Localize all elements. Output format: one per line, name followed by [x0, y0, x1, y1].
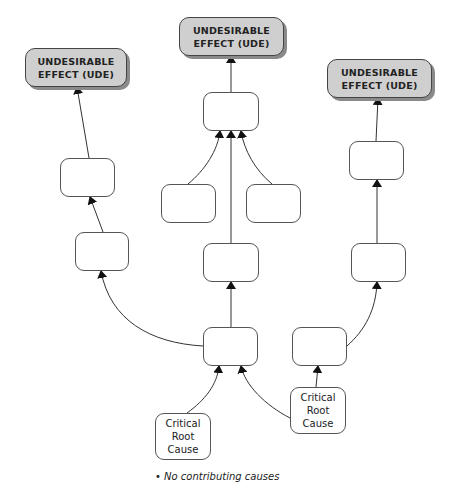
arrow-crc-left-to-center-bottom	[187, 366, 219, 413]
effect-box-right-upper	[349, 141, 404, 180]
effect-box-center-side-left	[161, 184, 216, 223]
current-reality-tree-diagram: UNDESIRABLE EFFECT (UDE) UNDESIRABLE EFF…	[0, 0, 458, 492]
ude-center-line2: EFFECT (UDE)	[194, 37, 270, 50]
crc-left-line3: Cause	[168, 443, 199, 456]
effect-box-left-lower	[75, 232, 129, 271]
crc-right-line2: Root	[307, 404, 330, 417]
crc-left-line2: Root	[172, 430, 195, 443]
arrow-l2-to-ude-left	[77, 87, 89, 158]
ude-right-node: UNDESIRABLE EFFECT (UDE)	[327, 59, 432, 98]
effect-box-center-side-right	[246, 184, 301, 223]
crc-right-line1: Critical	[301, 391, 336, 404]
crc-left-line1: Critical	[166, 417, 201, 430]
ude-center-line1: UNDESIRABLE	[193, 24, 270, 37]
footnote-no-contributing-causes: • No contributing causes	[155, 471, 279, 482]
ude-left-node: UNDESIRABLE EFFECT (UDE)	[25, 48, 127, 87]
arrow-side-left-to-center-top	[188, 131, 220, 184]
arrow-crc-right-to-right-bottom	[316, 366, 318, 387]
ude-right-line1: UNDESIRABLE	[341, 66, 418, 79]
arrow-l1-to-l2	[90, 197, 103, 232]
effect-box-left-upper	[60, 158, 115, 197]
effect-box-center-middle	[203, 243, 259, 282]
ude-left-line1: UNDESIRABLE	[37, 55, 114, 68]
effect-box-right-middle	[351, 243, 406, 282]
effect-box-right-bottom	[292, 327, 347, 366]
arrow-right-bottom-to-right-middle	[347, 282, 377, 346]
arrow-crc-right-to-center-bottom	[241, 366, 290, 418]
arrow-side-right-to-center-top	[241, 131, 272, 184]
effect-box-center-top	[203, 92, 259, 131]
crc-right-line3: Cause	[303, 417, 334, 430]
critical-root-cause-right: Critical Root Cause	[290, 387, 346, 434]
ude-right-line2: EFFECT (UDE)	[342, 79, 418, 92]
effect-box-center-bottom	[203, 327, 258, 366]
arrow-center-bottom-to-l1	[101, 271, 203, 346]
ude-left-line2: EFFECT (UDE)	[38, 68, 114, 81]
ude-center-node: UNDESIRABLE EFFECT (UDE)	[179, 17, 284, 56]
arrow-right-upper-to-ude-right	[376, 98, 378, 141]
critical-root-cause-left: Critical Root Cause	[155, 413, 211, 460]
